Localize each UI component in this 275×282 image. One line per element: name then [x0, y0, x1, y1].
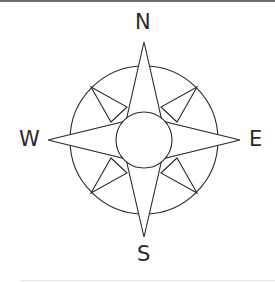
bottom-divider [20, 280, 275, 281]
east-label: E [249, 129, 262, 150]
compass-rose-icon [0, 0, 275, 282]
west-label: W [19, 129, 40, 150]
center-circle [116, 112, 172, 168]
north-label: N [135, 12, 151, 33]
south-label: S [137, 244, 150, 265]
